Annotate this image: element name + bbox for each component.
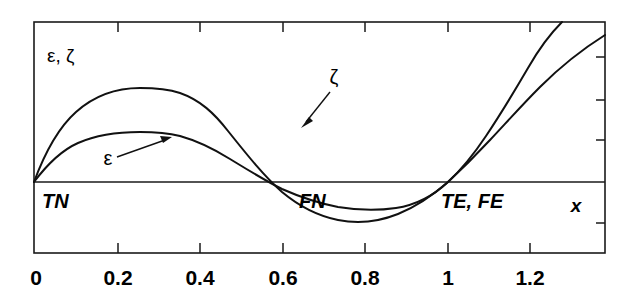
xtick-label-0: 0	[30, 266, 42, 289]
region-label-tn: TN	[42, 190, 69, 212]
curve-label-zeta: ζ	[330, 66, 339, 88]
xtick-label-6: 1.2	[515, 266, 544, 289]
region-label-te-fe: TE, FE	[441, 190, 504, 212]
chart-canvas: ζ ε ε, ζ x TN FN TE, FE 0 0.2 0.4 0.6 0.…	[0, 0, 631, 306]
xtick-label-2: 0.4	[185, 266, 215, 289]
xtick-label-4: 0.8	[350, 266, 380, 289]
curve-label-epsilon: ε	[104, 147, 113, 169]
chart-background	[0, 0, 631, 306]
figure-container: ζ ε ε, ζ x TN FN TE, FE 0 0.2 0.4 0.6 0.…	[0, 0, 631, 306]
y-axis-label: ε, ζ	[47, 45, 75, 66]
xtick-label-1: 0.2	[103, 266, 132, 289]
x-axis-label: x	[570, 195, 583, 216]
region-label-fn: FN	[299, 190, 326, 212]
xtick-label-3: 0.6	[268, 266, 297, 289]
xtick-label-5: 1	[442, 266, 454, 289]
